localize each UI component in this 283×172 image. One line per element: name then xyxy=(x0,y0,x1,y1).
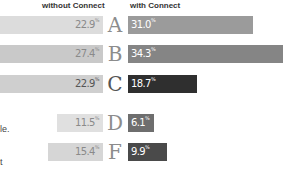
bar-without-F: 15.4% xyxy=(48,143,103,161)
value-label: 18.7 xyxy=(131,78,151,89)
value-label: 22.9 xyxy=(75,19,95,30)
percent-sign: % xyxy=(151,17,155,23)
text-fragment-1: le. xyxy=(0,124,10,134)
bar-with-D: 6.1% xyxy=(128,114,154,132)
percent-sign: % xyxy=(95,46,99,52)
value-label: 27.4 xyxy=(75,48,95,59)
percent-sign: % xyxy=(151,76,155,82)
grade-label-D: D xyxy=(105,113,125,133)
text-fragment-2: t xyxy=(0,157,3,167)
grade-label-F: F xyxy=(105,142,125,162)
percent-sign: % xyxy=(95,17,99,23)
percent-sign: % xyxy=(95,144,99,150)
value-label: 22.9 xyxy=(75,78,95,89)
percent-sign: % xyxy=(95,115,99,121)
grade-label-B: B xyxy=(105,44,125,64)
percent-sign: % xyxy=(145,144,149,150)
bar-with-C: 18.7% xyxy=(128,75,197,93)
bar-without-A: 22.9% xyxy=(0,16,103,34)
bar-with-A: 31.0% xyxy=(128,16,253,34)
value-label: 9.9 xyxy=(131,146,145,157)
header-with-connect: with Connect xyxy=(130,1,180,10)
bar-with-B: 34.3% xyxy=(128,45,283,63)
grade-label-A: A xyxy=(105,15,125,35)
value-label: 31.0 xyxy=(131,19,151,30)
bar-without-C: 22.9% xyxy=(0,75,103,93)
percent-sign: % xyxy=(95,76,99,82)
value-label: 15.4 xyxy=(75,146,95,157)
percent-sign: % xyxy=(151,46,155,52)
bar-without-B: 27.4% xyxy=(0,45,103,63)
value-label: 34.3 xyxy=(131,48,151,59)
bar-without-D: 11.5% xyxy=(57,114,103,132)
grade-label-C: C xyxy=(105,74,125,94)
bar-with-F: 9.9% xyxy=(128,143,167,161)
header-without-connect: without Connect xyxy=(42,1,105,10)
percent-sign: % xyxy=(145,115,149,121)
value-label: 11.5 xyxy=(75,117,95,128)
value-label: 6.1 xyxy=(131,117,145,128)
